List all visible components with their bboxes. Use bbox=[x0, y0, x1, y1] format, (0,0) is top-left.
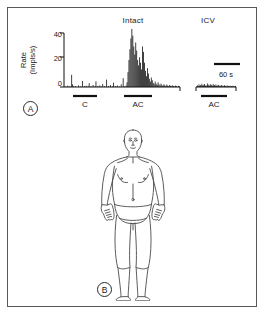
spike-bar bbox=[179, 86, 180, 87]
left-calf-outer bbox=[118, 268, 121, 296]
spike-bar bbox=[121, 84, 122, 87]
left-nipple bbox=[121, 178, 123, 180]
panel-a: Intact ICV Rate (Impls/s) 40 20 0 bbox=[0, 0, 264, 128]
spike-bar bbox=[154, 84, 155, 87]
spike-bar bbox=[104, 86, 105, 87]
spike-bar bbox=[129, 60, 130, 87]
spike-bars-intact bbox=[65, 29, 179, 87]
right-arm-inner bbox=[150, 169, 159, 205]
spike-bar bbox=[166, 85, 167, 87]
spike-bar bbox=[216, 86, 217, 87]
spike-bar bbox=[206, 85, 207, 87]
spike-bar bbox=[145, 71, 146, 87]
spike-bar bbox=[127, 82, 128, 87]
spike-bar bbox=[65, 86, 66, 87]
spike-bar bbox=[206, 86, 207, 87]
left-thigh-outer bbox=[115, 215, 118, 267]
spike-bar bbox=[217, 85, 218, 87]
human-body-diagram bbox=[88, 126, 178, 301]
spike-bar bbox=[201, 84, 202, 87]
spike-bar bbox=[112, 86, 113, 87]
spike-bar bbox=[223, 86, 224, 87]
spike-bar bbox=[73, 86, 74, 87]
right-torso-side bbox=[151, 166, 153, 204]
spike-bar bbox=[135, 42, 136, 87]
spike-bar bbox=[75, 86, 76, 87]
spike-bar bbox=[210, 84, 211, 87]
right-eyebrow bbox=[134, 138, 137, 139]
spike-bar bbox=[150, 82, 151, 87]
spike-bar bbox=[86, 86, 87, 87]
spike-bar bbox=[178, 86, 179, 87]
spike-bar bbox=[141, 69, 142, 87]
left-shin-inner bbox=[128, 268, 130, 296]
spike-bar bbox=[98, 86, 99, 87]
spike-bar bbox=[213, 84, 214, 87]
spike-bar bbox=[161, 84, 162, 87]
spike-bar bbox=[228, 86, 229, 87]
spike-bar bbox=[163, 86, 164, 87]
spike-bar bbox=[211, 86, 212, 87]
spike-bar bbox=[140, 63, 141, 87]
spike-bar bbox=[169, 85, 170, 87]
spike-bar bbox=[171, 86, 172, 87]
spike-bar bbox=[71, 75, 72, 87]
right-shin-inner bbox=[136, 268, 138, 296]
spike-bar bbox=[128, 72, 129, 87]
spike-bar bbox=[218, 85, 219, 87]
right-calf-outer bbox=[145, 268, 148, 296]
panel-letter-b: B bbox=[97, 282, 112, 297]
spike-bar bbox=[91, 86, 92, 87]
spike-bar bbox=[235, 86, 236, 87]
spike-bar bbox=[138, 65, 139, 87]
spike-bar bbox=[207, 83, 208, 87]
spike-bar bbox=[213, 86, 214, 87]
right-knee bbox=[136, 267, 148, 269]
spike-bar bbox=[230, 86, 231, 87]
spike-bar bbox=[221, 85, 222, 87]
stimulus-label-ac-icv: AC bbox=[208, 100, 219, 109]
spike-bar bbox=[89, 83, 90, 87]
spike-bar bbox=[167, 86, 168, 87]
time-scalebar-label: 60 s bbox=[219, 70, 233, 79]
nose bbox=[132, 141, 134, 145]
spike-bar bbox=[123, 78, 124, 87]
figure-root: Intact ICV Rate (Impls/s) 40 20 0 bbox=[0, 0, 264, 314]
spike-bar bbox=[124, 86, 125, 87]
spike-bar bbox=[143, 52, 144, 87]
spike-bar bbox=[205, 86, 206, 87]
spike-bar bbox=[119, 86, 120, 87]
spike-bar bbox=[133, 47, 134, 88]
spike-bar bbox=[137, 60, 138, 87]
spike-bar bbox=[106, 80, 107, 87]
left-knee bbox=[118, 267, 130, 269]
spike-bar bbox=[199, 86, 200, 87]
spike-bar bbox=[130, 49, 131, 87]
spike-bar bbox=[69, 86, 70, 87]
spike-bar bbox=[234, 86, 235, 87]
right-foot bbox=[136, 297, 150, 301]
spike-bar bbox=[216, 84, 217, 87]
spike-bar bbox=[72, 84, 73, 87]
spike-bar bbox=[202, 86, 203, 87]
spike-bar bbox=[156, 84, 157, 87]
spike-bars-icv bbox=[197, 83, 237, 87]
spike-bar bbox=[142, 47, 143, 88]
spike-bar bbox=[147, 68, 148, 87]
spike-bar bbox=[225, 86, 226, 87]
spike-bar bbox=[197, 85, 198, 87]
spike-bar bbox=[67, 86, 68, 87]
spike-bar bbox=[170, 86, 171, 87]
spike-bar bbox=[203, 85, 204, 87]
spike-bar bbox=[175, 86, 176, 87]
spike-bar bbox=[80, 86, 81, 87]
spike-bar bbox=[162, 85, 163, 87]
spike-bar bbox=[149, 79, 150, 87]
spike-bar bbox=[208, 85, 209, 87]
navel bbox=[132, 198, 134, 201]
spike-bar bbox=[99, 85, 100, 87]
spike-bar bbox=[153, 83, 154, 87]
spike-bar bbox=[113, 83, 114, 87]
spike-bar bbox=[152, 80, 153, 87]
spike-bar bbox=[95, 86, 96, 87]
